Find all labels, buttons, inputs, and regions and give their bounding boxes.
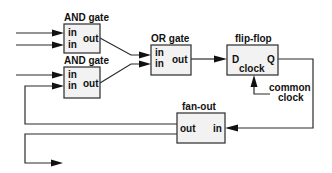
and-gate-1-in-a: in bbox=[68, 27, 77, 38]
input-wire-and1-a bbox=[16, 30, 64, 37]
and-gate-2[interactable]: AND gate in in out bbox=[64, 55, 109, 98]
flip-flop-q: Q bbox=[267, 54, 275, 65]
common-clock-label-2: clock bbox=[278, 92, 304, 103]
fan-out-in: in bbox=[213, 123, 222, 134]
fan-out-out: out bbox=[180, 123, 196, 134]
and-gate-2-in-a: in bbox=[68, 69, 77, 80]
flip-flop-title: flip-flop bbox=[235, 33, 272, 44]
wire-or-to-flipflop bbox=[191, 56, 227, 63]
or-gate-out: out bbox=[172, 54, 188, 65]
flip-flop-clock: clock bbox=[239, 63, 265, 74]
input-wire-and2-a bbox=[16, 72, 64, 79]
and-gate-1-title: AND gate bbox=[64, 12, 109, 23]
and-gate-1-out: out bbox=[83, 33, 99, 44]
flip-flop[interactable]: flip-flop D Q clock bbox=[227, 33, 278, 75]
or-gate-in-a: in bbox=[155, 47, 164, 58]
and-gate-2-title: AND gate bbox=[64, 55, 109, 66]
fanout-output-wire bbox=[25, 134, 177, 167]
circuit-diagram: AND gate in in out AND gate in in out OR… bbox=[0, 0, 332, 173]
fan-out-title: fan-out bbox=[182, 101, 217, 112]
and-gate-1-in-b: in bbox=[68, 39, 77, 50]
and-gate-2-in-b: in bbox=[68, 80, 77, 91]
feedback-wire bbox=[25, 83, 177, 125]
clock-wire bbox=[251, 75, 271, 94]
or-gate[interactable]: OR gate in in out bbox=[151, 33, 191, 75]
input-wire-and1-b bbox=[16, 42, 64, 49]
fan-out[interactable]: fan-out out in bbox=[177, 101, 225, 143]
or-gate-in-b: in bbox=[155, 58, 164, 69]
and-gate-1[interactable]: AND gate in in out bbox=[64, 12, 109, 53]
and-gate-2-out: out bbox=[83, 78, 99, 89]
or-gate-title: OR gate bbox=[151, 33, 190, 44]
